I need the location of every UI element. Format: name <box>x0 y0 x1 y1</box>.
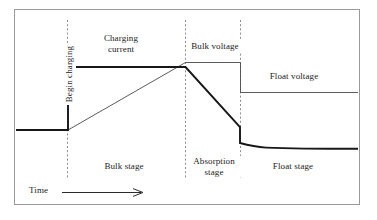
charging-current-label: Chargingcurrent <box>88 33 154 54</box>
begin-charging-label: Begin charging <box>64 43 76 105</box>
charging-current-line1: Charging <box>104 33 138 43</box>
float-stage-label: Float stage <box>265 161 321 172</box>
time-axis-label: Time <box>29 185 59 196</box>
absorption-stage-label: Absorptionstage <box>187 156 241 177</box>
absorption-stage-line1: Absorption <box>193 156 235 166</box>
bulk-stage-label: Bulk stage <box>96 161 152 172</box>
float-voltage-label: Float voltage <box>263 71 325 82</box>
bulk-voltage-label: Bulk voltage <box>187 41 243 52</box>
charging-current-line2: current <box>108 44 134 54</box>
absorption-stage-line2: stage <box>205 167 224 177</box>
charging-stage-figure: Chargingcurrent Bulk voltage Float volta… <box>0 0 377 220</box>
